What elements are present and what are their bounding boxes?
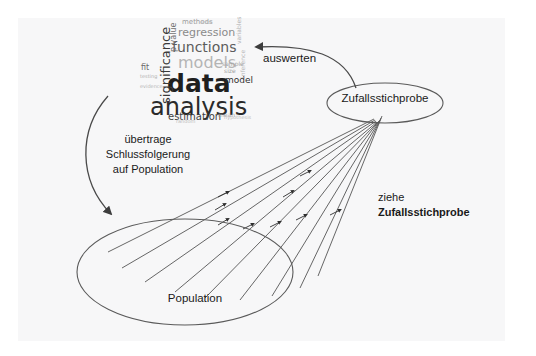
word-cloud-term: error (200, 20, 212, 25)
sampling-line (205, 122, 378, 298)
sampling-line (240, 121, 379, 300)
word-cloud-term: inference (240, 50, 246, 78)
transfer-edge-label: übertrage Schlussfolgerung auf Populatio… (88, 132, 208, 177)
draw-edge-label-line2: Zufallsstichprobe (378, 205, 470, 220)
transfer-edge-label-line3: auf Population (88, 162, 208, 177)
population-ellipse-label: Population (140, 292, 250, 304)
sample-ellipse-label: Zufallsstichprobe (330, 92, 440, 104)
population-ellipse (77, 219, 293, 325)
draw-edge-label: ziehe Zufallsstichprobe (378, 190, 470, 220)
sampling-line (318, 116, 382, 276)
word-cloud-term: hypothesis (224, 115, 251, 120)
word-cloud-term: p value (170, 23, 178, 52)
sampling-arrowhead (218, 192, 228, 197)
word-cloud-term: random (176, 119, 195, 124)
word-cloud-term: functions (172, 40, 236, 54)
word-cloud-term: variables (236, 17, 242, 44)
sampling-arrowhead (300, 171, 310, 176)
sampling-line (300, 118, 381, 288)
word-cloud-term: evidence (140, 84, 163, 89)
transfer-edge-label-line2: Schlussfolgerung (88, 147, 208, 162)
word-cloud-term: size (224, 68, 236, 74)
sampling-line (272, 120, 380, 296)
diagram-canvas: dataanalysismodelsfunctionsregressionsig… (0, 0, 536, 356)
evaluate-edge-label: auswerten (263, 52, 316, 64)
word-cloud-term: fit (141, 64, 149, 72)
word-cloud-term: regression (178, 27, 235, 38)
sampling-arrowhead (243, 224, 253, 229)
draw-edge-label-line1: ziehe (378, 190, 470, 205)
transfer-edge-label-line1: übertrage (88, 132, 208, 147)
data-analysis-word-cloud: dataanalysismodelsfunctionsregressionsig… (140, 16, 270, 122)
word-cloud-term: testing (140, 74, 157, 79)
